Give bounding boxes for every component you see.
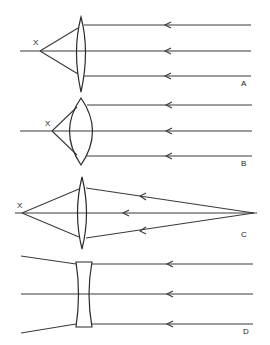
focal-point-label: X — [33, 38, 39, 47]
focal-point-label: X — [17, 201, 23, 210]
panel-label: C — [241, 230, 247, 239]
panel-label: B — [241, 159, 246, 168]
panel-label: D — [243, 327, 249, 336]
refracted-ray-top — [40, 28, 78, 51]
refracted-ray-bottom — [40, 51, 78, 74]
focal-point-label: X — [45, 119, 51, 128]
panel-c: X C — [15, 177, 257, 249]
refracted-ray-top — [22, 189, 79, 213]
lens-ray-diagram: X A X B X C — [0, 0, 270, 345]
refracted-ray-bottom — [21, 324, 76, 333]
refracted-ray-bottom — [22, 213, 79, 237]
refracted-ray-top — [52, 107, 77, 131]
incoming-ray-top — [86, 188, 254, 213]
panel-d: D — [21, 256, 253, 336]
refracted-ray-top — [21, 256, 76, 264]
panel-label: A — [241, 79, 247, 88]
panel-b: X B — [20, 98, 252, 168]
arrow-left-icon — [140, 227, 146, 234]
panel-a: X A — [20, 17, 251, 92]
incoming-ray-bottom — [86, 213, 254, 238]
